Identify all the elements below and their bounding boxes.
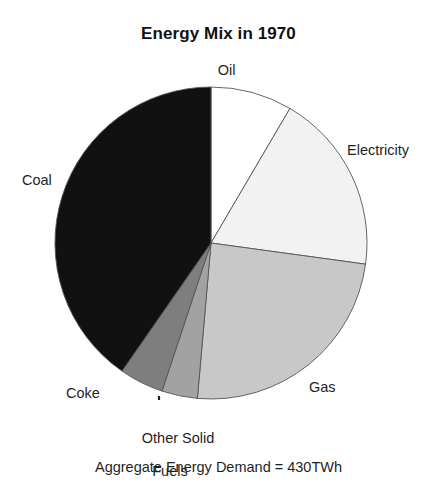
pie-label-coke: Coke [66, 385, 100, 401]
pie-graphic [54, 86, 368, 400]
pie-chart-figure: Energy Mix in 1970 Oil Electricity Coal … [0, 0, 437, 498]
pie-svg [54, 86, 368, 400]
chart-title: Energy Mix in 1970 [0, 24, 437, 44]
pie-label-gas: Gas [309, 379, 336, 395]
chart-caption: Aggregate Energy Demand = 430TWh [0, 459, 437, 475]
pie-label-oil: Oil [8, 62, 437, 78]
pie-label-electricity: Electricity [347, 142, 409, 158]
pie-label-other-solid-fuels-line1: Other Solid [142, 430, 215, 446]
pie-label-coal: Coal [22, 172, 52, 188]
pie-slice-gas [197, 243, 365, 399]
pie-label-other-solid-fuels: Other Solid Fuels [110, 414, 230, 498]
pie-slice-group [55, 87, 367, 399]
